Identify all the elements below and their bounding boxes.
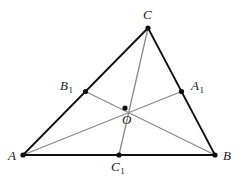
median-B-B1 — [86, 92, 216, 156]
point-a1 — [179, 89, 184, 94]
geometry-figure: ABCA1B1C1O — [0, 0, 242, 182]
label-a1: A1 — [191, 79, 204, 95]
label-c-text: C — [143, 7, 152, 22]
label-b1-text: B — [60, 78, 68, 93]
label-a1-subscript: 1 — [199, 85, 204, 95]
point-o — [122, 105, 127, 110]
vertex-points-group — [20, 25, 217, 157]
label-c1-subscript: 1 — [120, 166, 125, 176]
label-b: B — [223, 149, 231, 162]
triangle-sides-group — [23, 28, 215, 155]
triangle-medians-diagram — [0, 0, 242, 182]
median-A-A1 — [23, 92, 182, 156]
median-C-C1 — [119, 28, 148, 155]
label-a1-text: A — [191, 78, 199, 93]
point-b — [212, 152, 217, 157]
label-b-text: B — [223, 148, 231, 163]
label-a: A — [8, 149, 16, 162]
label-o-text: O — [122, 112, 131, 127]
point-c1 — [116, 152, 121, 157]
label-o: O — [122, 113, 131, 126]
label-c1-text: C — [111, 159, 120, 174]
label-a-text: A — [8, 148, 16, 163]
label-c1: C1 — [111, 160, 125, 176]
point-c — [145, 25, 150, 30]
point-b1 — [83, 89, 88, 94]
point-a — [20, 152, 25, 157]
label-c: C — [143, 8, 152, 21]
label-b1: B1 — [60, 79, 73, 95]
label-b1-subscript: 1 — [68, 85, 73, 95]
medians-group — [23, 28, 215, 155]
